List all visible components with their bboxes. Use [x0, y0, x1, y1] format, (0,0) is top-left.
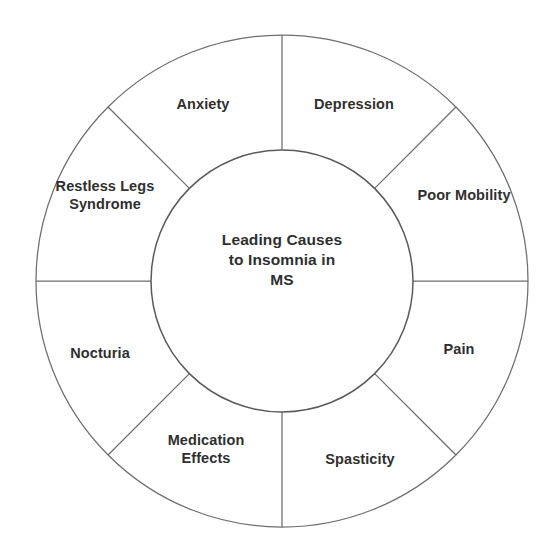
- segment-label-restless-legs-syndrome-line-2: Syndrome: [69, 196, 141, 212]
- insomnia-causes-wheel-diagram: DepressionPoor MobilityPainSpasticityMed…: [0, 0, 558, 548]
- segment-label-depression: Depression: [314, 96, 394, 112]
- segment-label-pain: Pain: [443, 341, 474, 357]
- segment-label-nocturia: Nocturia: [70, 345, 130, 361]
- segment-label-spasticity-line-1: Spasticity: [325, 451, 395, 467]
- segment-label-medication-effects: MedicationEffects: [168, 432, 245, 466]
- hub-label-line-1: Leading Causes: [222, 231, 342, 248]
- segment-label-poor-mobility-line-1: Poor Mobility: [417, 187, 510, 203]
- wheel-canvas: DepressionPoor MobilityPainSpasticityMed…: [0, 0, 558, 548]
- segment-label-pain-line-1: Pain: [443, 341, 474, 357]
- spoke-divider-315: [375, 374, 456, 455]
- hub-label-line-2: to Insomnia in: [229, 251, 335, 268]
- segment-label-restless-legs-syndrome-line-1: Restless Legs: [56, 178, 155, 194]
- segment-label-depression-line-1: Depression: [314, 96, 394, 112]
- segment-label-nocturia-line-1: Nocturia: [70, 345, 130, 361]
- spoke-divider-135: [108, 107, 189, 188]
- segment-label-medication-effects-line-2: Effects: [181, 450, 230, 466]
- spoke-divider-45: [375, 107, 456, 188]
- segment-label-anxiety-line-1: Anxiety: [176, 96, 229, 112]
- segment-label-restless-legs-syndrome: Restless LegsSyndrome: [56, 178, 155, 212]
- hub-label-line-3: MS: [270, 271, 293, 288]
- segment-label-poor-mobility: Poor Mobility: [417, 187, 510, 203]
- segment-label-anxiety: Anxiety: [176, 96, 229, 112]
- segment-label-medication-effects-line-1: Medication: [168, 432, 245, 448]
- segment-label-spasticity: Spasticity: [325, 451, 395, 467]
